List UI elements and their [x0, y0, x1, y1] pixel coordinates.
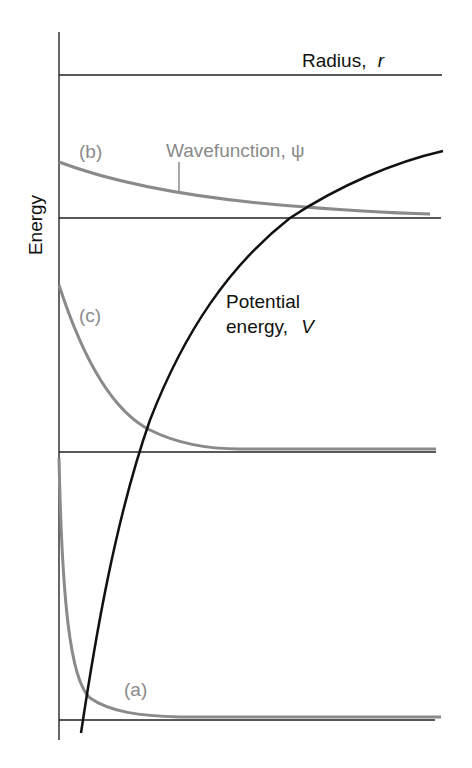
energy-axis-label: Energy: [25, 194, 46, 255]
energy-wavefunction-diagram: Radius, r Energy (b) Wavefunction, ψ (c)…: [0, 0, 472, 768]
wavefunction-curve-b: [59, 162, 430, 214]
potential-label-line2: energy, V: [226, 316, 316, 337]
potential-label-line1: Potential: [226, 291, 300, 312]
wavefunction-curve-a: [59, 458, 441, 717]
panel-label-c: (c): [79, 305, 101, 326]
radius-axis-label: Radius, r: [302, 50, 385, 71]
panel-label-b: (b): [79, 141, 102, 162]
panel-label-a: (a): [124, 679, 147, 700]
potential-energy-curve: [81, 151, 443, 733]
wavefunction-label: Wavefunction, ψ: [166, 140, 305, 161]
